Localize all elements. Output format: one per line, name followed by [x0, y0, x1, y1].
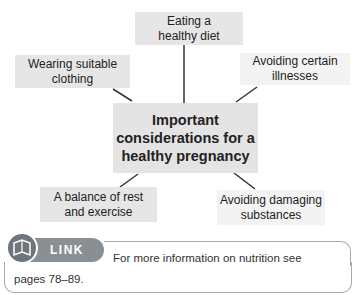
link-text: For more information on nutrition see	[113, 252, 302, 264]
node-eating-healthy-diet: Eating a healthy diet	[135, 12, 243, 45]
node-line: Eating a	[167, 14, 211, 29]
center-line: Important	[152, 111, 219, 129]
node-line: Avoiding damaging	[220, 193, 322, 208]
node-line: healthy diet	[158, 29, 219, 44]
center-line: considerations for a	[116, 129, 255, 147]
node-line: and exercise	[64, 205, 132, 220]
node-line: Wearing suitable	[28, 57, 117, 72]
node-balance-rest-exercise: A balance of rest and exercise	[40, 187, 157, 222]
node-wearing-suitable-clothing: Wearing suitable clothing	[15, 55, 130, 88]
node-avoiding-damaging-substances: Avoiding damaging substances	[217, 190, 325, 225]
book-icon	[6, 232, 38, 264]
node-line: A balance of rest	[54, 190, 143, 205]
node-line: substances	[241, 208, 302, 223]
node-line: clothing	[52, 72, 93, 87]
node-line: illnesses	[272, 69, 318, 84]
node-avoiding-certain-illnesses: Avoiding certain illnesses	[240, 53, 350, 85]
link-badge-label: LINK	[50, 243, 84, 257]
link-text-pages: pages 78–89.	[14, 273, 84, 285]
center-line: healthy pregnancy	[121, 147, 249, 165]
node-line: Avoiding certain	[252, 54, 337, 69]
central-node: Important considerations for a healthy p…	[113, 103, 258, 173]
